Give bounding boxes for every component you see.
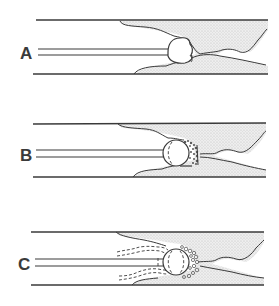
panel-label-a: A xyxy=(20,44,32,63)
panel-b: B xyxy=(20,123,266,177)
panel-c: C xyxy=(18,232,264,285)
vessel-wall-top xyxy=(33,123,266,124)
diagram-canvas: A B xyxy=(0,0,279,306)
dashed-tissue-outline xyxy=(117,246,168,280)
panel-label-b: B xyxy=(20,146,32,165)
panel-label-c: C xyxy=(18,255,30,274)
panel-a: A xyxy=(20,20,268,74)
obstruction-shading xyxy=(120,20,268,74)
ball-tip xyxy=(168,38,192,63)
ball-tip xyxy=(163,249,189,275)
ball-tip xyxy=(163,140,189,166)
